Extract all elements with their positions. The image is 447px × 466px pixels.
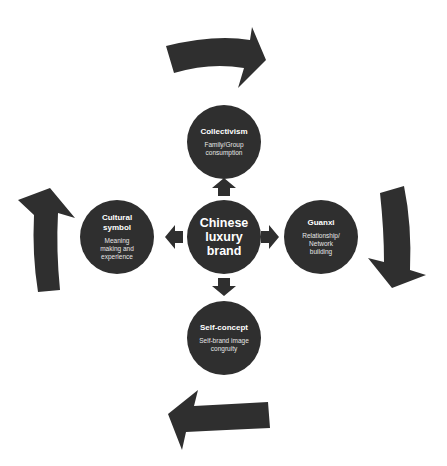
arrow-left-icon <box>165 225 183 249</box>
node-title: Self-concept <box>200 323 248 333</box>
curved-arrow-right-icon <box>368 186 426 288</box>
node-subtitle: Relationship/ Network building <box>299 232 343 256</box>
curved-arrow-bottom-icon <box>168 390 270 450</box>
center-node: Chinese luxury brand <box>187 200 261 274</box>
node-cultural-symbol: Cultural symbol Meaning making and exper… <box>80 200 154 274</box>
node-title: Guanxi <box>307 218 334 228</box>
node-collectivism: Collectivism Family/Group consumption <box>187 105 261 179</box>
node-guanxi: Guanxi Relationship/ Network building <box>284 200 358 274</box>
center-title: Chinese luxury brand <box>187 216 261 258</box>
arrow-right-icon <box>261 225 279 249</box>
node-title: Collectivism <box>200 127 247 137</box>
node-self-concept: Self-concept Self-brand image congruity <box>187 301 261 375</box>
node-title: Cultural symbol <box>95 213 139 233</box>
arrow-up-icon <box>212 178 236 196</box>
node-subtitle: Meaning making and experience <box>94 237 140 261</box>
node-subtitle: Family/Group consumption <box>199 141 249 157</box>
curved-arrow-top-icon <box>166 27 266 88</box>
arrow-down-icon <box>212 278 236 296</box>
curved-arrow-left-icon <box>18 188 75 292</box>
node-subtitle: Self-brand image congruity <box>198 337 250 353</box>
